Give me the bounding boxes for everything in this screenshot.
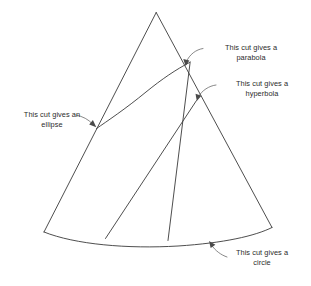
parabola-leader-line (187, 49, 204, 62)
label-parabola: This cut gives a parabola (205, 43, 297, 62)
parabola-cut (168, 62, 190, 241)
cone-base-circle-cut (44, 228, 272, 247)
hyperbola-leader-line (199, 85, 217, 97)
label-hyperbola: This cut gives a hyperbola (218, 79, 306, 98)
label-circle: This cut gives a circle (218, 248, 306, 267)
ellipse-cut (97, 63, 190, 129)
label-ellipse: This cut gives an ellipse (8, 110, 96, 129)
hyperbola-cut (106, 101, 197, 239)
